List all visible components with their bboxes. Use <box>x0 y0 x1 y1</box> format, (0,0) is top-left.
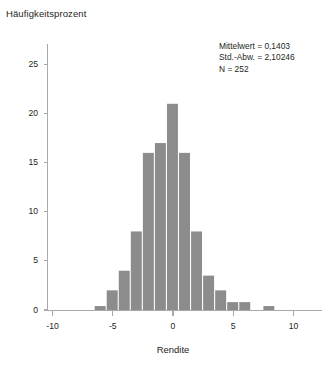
histogram-bar <box>263 306 274 310</box>
histogram-bar <box>143 153 154 310</box>
plot-area: 0510152025 -10-50510 <box>0 0 336 366</box>
x-axis-tick-label: -5 <box>98 321 128 331</box>
y-axis-tick-label: 20 <box>16 108 38 118</box>
x-axis-tick-label: 5 <box>218 321 248 331</box>
y-axis-tick-label: 10 <box>16 206 38 216</box>
y-axis-tick-label: 0 <box>16 305 38 315</box>
histogram-bar <box>215 290 226 310</box>
histogram-bar <box>107 290 118 310</box>
y-axis-tick-label: 25 <box>16 59 38 69</box>
x-axis-tick-label: 0 <box>158 321 188 331</box>
histogram-bar <box>119 271 130 310</box>
histogram-bar <box>131 231 142 310</box>
histogram-bar <box>95 306 106 310</box>
histogram-bar <box>203 276 214 310</box>
histogram-bar <box>191 231 202 310</box>
histogram-bar <box>155 143 166 310</box>
x-axis-tick-label: -10 <box>38 321 68 331</box>
x-axis-title: Rendite <box>113 344 233 355</box>
y-axis-tick-label: 15 <box>16 157 38 167</box>
histogram-bar <box>179 153 190 310</box>
bars-group <box>95 104 275 310</box>
histogram-bar <box>239 302 250 310</box>
y-axis-tick-label: 5 <box>16 255 38 265</box>
x-axis-tick-label: 10 <box>279 321 309 331</box>
histogram-chart: Häufigkeitsprozent Mittelwert = 0,1403 S… <box>0 0 336 366</box>
histogram-bar <box>227 302 238 310</box>
histogram-bar <box>167 104 178 310</box>
plot-svg <box>0 0 336 366</box>
